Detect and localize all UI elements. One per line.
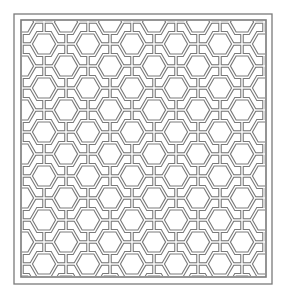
tiling-pattern <box>22 21 265 276</box>
tiling-artwork <box>0 0 286 301</box>
